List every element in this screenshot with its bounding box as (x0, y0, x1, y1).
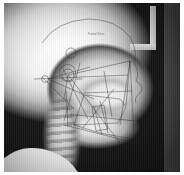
radiograph-film-area: Frontal Sinus Sella Gonion (4, 3, 180, 172)
vignette-layer (4, 3, 180, 172)
cephalometric-radiograph-image: Frontal Sinus Sella Gonion (0, 0, 184, 175)
